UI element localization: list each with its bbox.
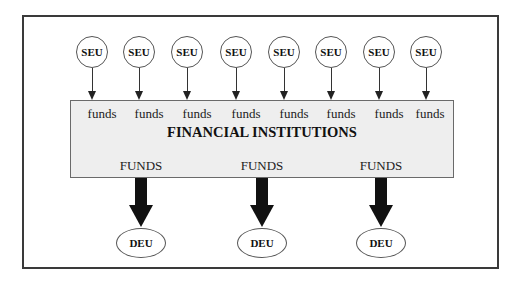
arrow-down-icon xyxy=(280,91,288,100)
seu-node: SEU xyxy=(363,36,395,68)
thick-arrow-shaft xyxy=(256,178,268,206)
arrow-line xyxy=(426,68,427,92)
deu-node: DEU xyxy=(356,228,406,258)
arrow-line xyxy=(187,68,188,92)
funds-label: funds xyxy=(183,106,212,122)
thick-arrow-down-icon xyxy=(129,205,153,227)
arrow-line xyxy=(379,68,380,92)
arrow-down-icon xyxy=(88,91,96,100)
seu-node: SEU xyxy=(268,36,300,68)
arrow-down-icon xyxy=(327,91,335,100)
thick-arrow-down-icon xyxy=(369,205,393,227)
thick-arrow-shaft xyxy=(375,178,387,206)
funds-label: funds xyxy=(327,106,356,122)
arrow-line xyxy=(92,68,93,92)
funds-out-label: FUNDS xyxy=(241,158,284,174)
funds-out-label: FUNDS xyxy=(360,158,403,174)
arrow-line xyxy=(236,68,237,92)
seu-node: SEU xyxy=(76,36,108,68)
deu-node: DEU xyxy=(237,228,287,258)
arrow-down-icon xyxy=(183,91,191,100)
funds-out-label: FUNDS xyxy=(120,158,163,174)
arrow-line xyxy=(331,68,332,92)
funds-label: funds xyxy=(280,106,309,122)
financial-institutions-title: FINANCIAL INSTITUTIONS xyxy=(70,124,454,141)
seu-node: SEU xyxy=(410,36,442,68)
thick-arrow-shaft xyxy=(135,178,147,206)
arrow-line xyxy=(284,68,285,92)
deu-node: DEU xyxy=(116,228,166,258)
seu-node: SEU xyxy=(220,36,252,68)
funds-label: funds xyxy=(375,106,404,122)
thick-arrow-down-icon xyxy=(250,205,274,227)
funds-label: funds xyxy=(88,106,117,122)
arrow-down-icon xyxy=(232,91,240,100)
arrow-line xyxy=(139,68,140,92)
seu-node: SEU xyxy=(123,36,155,68)
arrow-down-icon xyxy=(422,91,430,100)
funds-label: funds xyxy=(135,106,164,122)
seu-node: SEU xyxy=(315,36,347,68)
seu-node: SEU xyxy=(171,36,203,68)
funds-label: funds xyxy=(232,106,261,122)
arrow-down-icon xyxy=(375,91,383,100)
funds-label: funds xyxy=(416,106,445,122)
arrow-down-icon xyxy=(135,91,143,100)
